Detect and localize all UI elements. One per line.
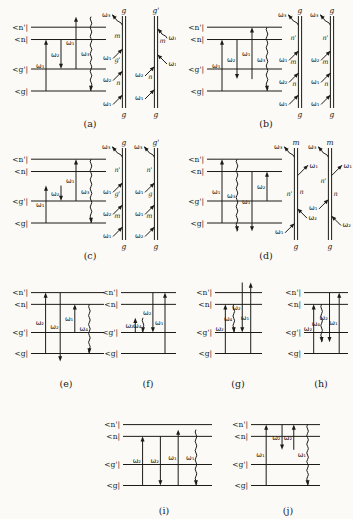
panel-caption: (a) — [83, 118, 96, 129]
energy-level-diagram-figure: <n'|<n|<g'|<g|ω₁ω₂ω₁ω₃ggω₁ω₂ω₁ω₃ng'mg'gω… — [0, 0, 353, 519]
diagram-svg-d: <n'|<n|<g'|<g|ω₁ω₃ω₁ω₂mgω₁ω₂ω₁ω₃n'nmgω₂ω… — [178, 132, 352, 262]
diagram-svg-i: <n'|<n|<g'|<g|ω₂ω₂ω₁ω₁(i) — [92, 398, 218, 518]
level-label: <g'| — [12, 65, 28, 74]
level-label: <n'| — [285, 288, 301, 297]
level-label: <n'| — [12, 288, 28, 297]
photon-label: ω₁ — [66, 39, 75, 47]
panel-f: <n'|<n|<g'|<g|ω₂ω₄ω₂ω₁(f) — [92, 268, 182, 392]
photon-label: ω₁ — [168, 454, 177, 462]
intermediate-state-label: n' — [322, 34, 328, 42]
level-label: <n| — [106, 432, 120, 441]
panel-caption: (b) — [259, 118, 273, 129]
state-label-top: g — [122, 6, 127, 15]
photon-label: ω₁ — [242, 198, 251, 206]
arrowhead — [194, 480, 198, 485]
photon-label: ω₂ — [51, 51, 60, 59]
arrowhead — [220, 40, 224, 45]
photon-label: ω₁ — [344, 162, 353, 170]
level-label: <n| — [234, 432, 248, 441]
panel-h: <n'|<n|<g'|<g|ω₂ω₄ω₂ω₁(h) — [277, 268, 351, 392]
level-label: <g| — [287, 349, 301, 358]
photon-label: ω₂ — [133, 457, 142, 465]
panel-g: <n'|<n|<g'|<g|ω₂ω₄ω₂ω₁(g) — [186, 268, 266, 392]
photon-label: ω₃ — [168, 34, 176, 42]
level-label: <n| — [190, 167, 204, 176]
arrowhead — [235, 74, 239, 79]
arrowhead — [232, 327, 236, 332]
state-label-bottom: g — [298, 110, 303, 119]
photon-label: ω₁ — [309, 204, 318, 212]
photon-label: ω₄ — [79, 325, 88, 333]
diagram-svg-g: <n'|<n|<g'|<g|ω₂ω₄ω₂ω₁(g) — [186, 268, 266, 392]
photon-label: ω₁ — [311, 78, 320, 86]
intermediate-state-label: m — [290, 58, 296, 66]
photon-label: ω₁ — [155, 319, 164, 327]
arrowhead — [249, 283, 253, 288]
arrowhead — [58, 356, 62, 361]
level-label: <n| — [287, 300, 301, 309]
state-label-bottom: g — [154, 110, 159, 119]
level-label: <n| — [14, 167, 28, 176]
photon-label: ω₁ — [168, 60, 176, 68]
panel-a: <n'|<n|<g'|<g|ω₁ω₂ω₁ω₃ggω₁ω₂ω₁ω₃ng'mg'gω… — [2, 2, 176, 130]
photon-label: ω₃ — [134, 143, 143, 151]
photon-label: ω₁ — [242, 50, 251, 58]
photon-label: ω₂ — [272, 434, 281, 442]
intermediate-state-label: m — [114, 212, 120, 220]
photon-label: ω₁ — [311, 100, 320, 108]
panel-caption: (c) — [84, 250, 97, 261]
level-label: <g'| — [196, 328, 212, 337]
panel-j: <n'|<n|<g'|<g|ω₁ω₂ω₂ω₁(j) — [222, 398, 326, 518]
panel-c: <n'|<n|<g'|<g|ω₁ω₂ω₁ω₃ggω₁ω₂ω₁ω₃mg'n'g'g… — [2, 132, 176, 262]
photon-label: ω₃ — [257, 56, 266, 64]
state-label-bottom: g — [122, 242, 127, 251]
photon-label: ω₃ — [227, 192, 236, 200]
panel-caption: (j) — [283, 505, 293, 516]
photon-label: ω₃ — [310, 11, 319, 19]
photon-label: ω₃ — [274, 143, 283, 151]
panel-b: <n'|<n|<g'|<g|ω₁ω₂ω₁ω₃ggω₁ω₂ω₁ω₃nmn'ggω₁… — [178, 2, 352, 130]
transition-arrow-wavy — [90, 159, 92, 223]
photon-label: ω₄ — [133, 322, 142, 330]
arrowhead — [87, 348, 91, 353]
intermediate-state-label: n — [292, 80, 296, 88]
arrowhead — [44, 186, 48, 191]
intermediate-state-label: g' — [114, 190, 120, 198]
transition-arrow-wavy — [307, 425, 309, 486]
level-label: <n| — [104, 300, 118, 309]
state-label-bottom: g — [328, 242, 333, 251]
photon-label: ω₂ — [36, 319, 45, 327]
level-label: <n'| — [196, 288, 212, 297]
intermediate-state-label: n — [148, 73, 152, 81]
photon-label: ω₂ — [135, 71, 144, 79]
panel-i: <n'|<n|<g'|<g|ω₂ω₂ω₁ω₁(i) — [92, 398, 218, 518]
photon-label: ω₁ — [310, 162, 319, 170]
arrowhead — [151, 327, 155, 332]
arrowhead — [240, 327, 244, 332]
diagram-svg-b: <n'|<n|<g'|<g|ω₁ω₂ω₁ω₃ggω₁ω₂ω₁ω₃nmn'ggω₁… — [178, 2, 352, 130]
photon-label: ω₁ — [256, 451, 265, 459]
intermediate-state-label: m — [322, 58, 328, 66]
photon-label: ω₁ — [186, 454, 195, 462]
photon-label: ω₁ — [135, 210, 144, 218]
photon-label: ω₁ — [212, 188, 221, 196]
photon-label: ω₂ — [150, 457, 159, 465]
state-label-top: g — [298, 6, 303, 15]
photon-label: ω₁ — [329, 319, 338, 327]
diagram-svg-f: <n'|<n|<g'|<g|ω₂ω₄ω₂ω₁(f) — [92, 268, 182, 392]
level-label: <n'| — [104, 420, 120, 429]
arrowhead — [328, 337, 332, 342]
photon-label: ω₃ — [308, 143, 317, 151]
state-label-top: g — [330, 6, 335, 15]
photon-label: ω₃ — [81, 50, 90, 58]
photon-label: ω₁ — [103, 54, 112, 62]
arrowhead — [163, 293, 167, 298]
panel-caption: (g) — [231, 378, 245, 389]
level-label: <n'| — [232, 420, 248, 429]
panel-caption: (e) — [59, 378, 72, 389]
photon-label: ω₂ — [51, 190, 60, 198]
level-label: <g'| — [12, 328, 28, 337]
arrowhead — [141, 436, 145, 441]
arrowhead — [44, 40, 48, 45]
arrowhead — [223, 304, 227, 309]
